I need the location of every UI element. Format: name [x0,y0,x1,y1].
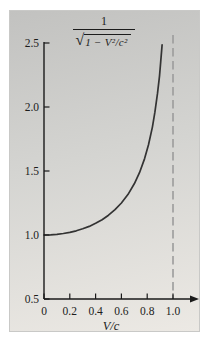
y-tick-label: 1.0 [10,228,39,242]
x-axis-arrow-icon [190,296,199,303]
fraction-denominator: √ 1 − V²/c² [73,29,134,50]
fraction-numerator: 1 [99,14,109,29]
y-tick-label: 2.5 [10,36,39,50]
y-tick-label: 1.5 [10,164,39,178]
x-axis-title: V/c [80,319,142,334]
fraction: 1 √ 1 − V²/c² [73,14,134,50]
x-tick-label: 1.0 [158,304,188,318]
y-tick-label: 2.0 [10,100,39,114]
tick-marks [44,43,173,299]
y-axis-formula: 1 √ 1 − V²/c² [52,14,156,50]
radicand-text: 1 − V²/c² [84,34,130,50]
figure-panel: 2.52.01.51.00.500.20.40.60.81.0 1 √ 1 − … [9,10,200,332]
gamma-curve [44,45,162,235]
radical-sign-icon: √ [75,32,84,47]
